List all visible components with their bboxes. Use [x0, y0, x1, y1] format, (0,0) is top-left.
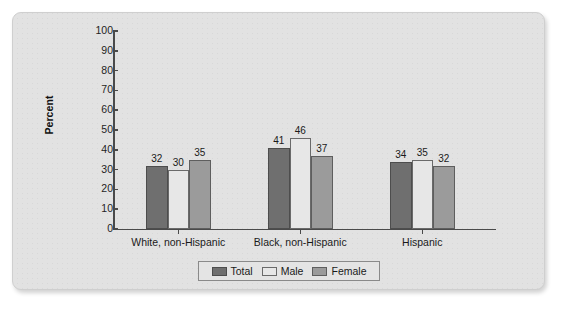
y-tick-label: 30 — [67, 164, 113, 176]
y-tick-mark — [113, 50, 118, 52]
x-tick-mark — [300, 229, 302, 234]
legend-swatch-male-icon — [262, 267, 277, 276]
y-tick-label-text: 0 — [79, 223, 113, 234]
legend-label-total: Total — [231, 266, 253, 277]
y-tick-label: 0 — [67, 223, 113, 235]
bar-female — [189, 160, 211, 229]
y-tick-label: 20 — [67, 183, 113, 195]
y-tick-label-text: 40 — [79, 144, 113, 155]
y-tick-label-text: 80 — [79, 65, 113, 76]
legend-label-female: Female — [331, 266, 366, 277]
y-tick-mark — [113, 189, 118, 191]
bar-male — [412, 160, 434, 229]
x-tick-mark — [422, 229, 424, 234]
y-tick-label-text: 70 — [79, 84, 113, 95]
y-tick-label-text: 20 — [79, 183, 113, 194]
y-tick-label: 50 — [67, 124, 113, 136]
y-tick-mark — [113, 90, 118, 92]
y-tick-mark — [113, 208, 118, 210]
y-tick-label: 70 — [67, 84, 113, 96]
y-tick-mark — [113, 129, 118, 131]
x-tick-mark — [178, 229, 180, 234]
y-tick-label-text: 90 — [79, 45, 113, 56]
y-axis-title: Percent — [43, 75, 55, 155]
bar-value-label: 32 — [427, 154, 461, 164]
bar-total — [390, 162, 412, 229]
bar-female — [311, 156, 333, 229]
y-tick-label: 90 — [67, 45, 113, 57]
category-label: White, non-Hispanic — [108, 237, 248, 248]
y-tick-label: 80 — [67, 65, 113, 77]
y-tick-mark — [113, 30, 118, 32]
y-tick-mark — [113, 169, 118, 171]
legend-item-male: Male — [262, 266, 304, 277]
bar-value-label: 46 — [284, 126, 318, 136]
legend-item-total: Total — [212, 266, 253, 277]
y-tick-label: 40 — [67, 144, 113, 156]
chart-panel: Percent 1009080706050403020100 323035414… — [12, 12, 545, 290]
bar-value-label: 37 — [305, 144, 339, 154]
category-label: Hispanic — [352, 237, 492, 248]
chart-legend: Total Male Female — [198, 261, 380, 281]
y-tick-label: 60 — [67, 104, 113, 116]
y-tick-mark — [113, 109, 118, 111]
legend-label-male: Male — [281, 266, 304, 277]
y-tick-label-text: 10 — [79, 203, 113, 214]
y-tick-mark — [113, 149, 118, 151]
legend-swatch-total-icon — [212, 267, 227, 276]
plot-area: Percent 1009080706050403020100 323035414… — [13, 13, 545, 290]
bar-male — [168, 170, 190, 229]
y-tick-label-text: 50 — [79, 124, 113, 135]
bar-value-label: 35 — [183, 148, 217, 158]
y-tick-mark — [113, 70, 118, 72]
y-tick-label: 100 — [67, 25, 113, 37]
y-tick-mark — [113, 228, 118, 230]
chart-screenshot: Percent 1009080706050403020100 323035414… — [0, 0, 562, 311]
y-tick-label-text: 60 — [79, 104, 113, 115]
y-tick-label-text: 30 — [79, 164, 113, 175]
legend-item-female: Female — [312, 266, 366, 277]
bar-total — [146, 166, 168, 229]
y-tick-label-text: 100 — [79, 25, 113, 36]
bar-total — [268, 148, 290, 229]
category-label: Black, non-Hispanic — [230, 237, 370, 248]
y-tick-label: 10 — [67, 203, 113, 215]
bar-female — [433, 166, 455, 229]
legend-swatch-female-icon — [312, 267, 327, 276]
